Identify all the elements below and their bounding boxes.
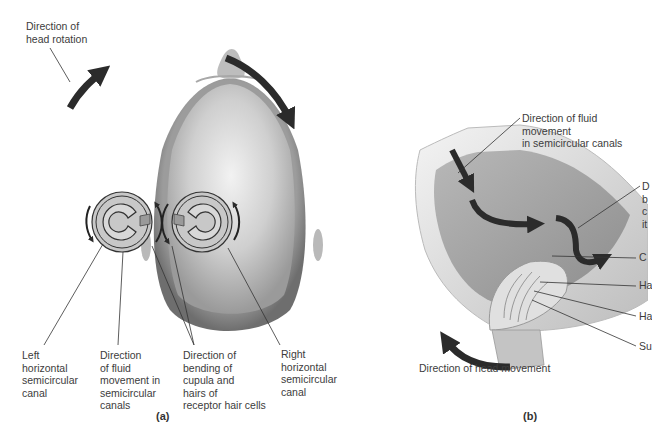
label-head-movement: Direction of head movement bbox=[419, 362, 550, 375]
cupula-left bbox=[140, 214, 150, 226]
label-right-horizontal-canal: Right horizontal semicircular canal bbox=[281, 348, 337, 398]
label-hairs-partial: Ha bbox=[639, 279, 652, 292]
cupula-right bbox=[174, 214, 184, 226]
label-hair-cells-partial: Ha bbox=[639, 310, 652, 323]
head-illustration bbox=[141, 49, 323, 331]
label-fluid-movement-b: Direction of fluid movement in semicircu… bbox=[522, 112, 648, 150]
right-ear bbox=[313, 229, 323, 261]
panel-label-a: (a) bbox=[156, 410, 169, 422]
label-head-rotation: Direction of head rotation bbox=[26, 20, 87, 45]
head-rotation-arrow-left bbox=[70, 72, 102, 108]
label-bending-cupula: Direction of bending of cupula and hairs… bbox=[183, 349, 266, 412]
ampulla-cross-section bbox=[415, 125, 648, 370]
label-bending-partial: D b c it bbox=[642, 180, 650, 230]
label-fluid-movement-a: Direction of fluid movement in semicircu… bbox=[100, 349, 160, 412]
panel-label-b: (b) bbox=[523, 410, 537, 422]
label-left-horizontal-canal: Left horizontal semicircular canal bbox=[22, 349, 78, 399]
label-supporting-cells-partial: Su bbox=[639, 340, 652, 353]
label-cupula-partial: C bbox=[639, 251, 647, 264]
